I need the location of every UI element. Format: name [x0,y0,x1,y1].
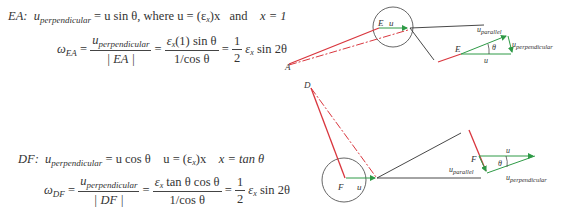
inset-e-theta-arc [488,44,489,54]
inset-f-u-perpendicular [487,156,535,173]
line-ae [289,28,379,64]
leader-e-lower [410,28,434,60]
label-a: A [284,62,291,72]
inset-e-red-segment [438,54,461,62]
inset-e-label-u-perpendicular: uperpendicular [512,40,553,50]
inset-e-u-parallel [461,36,506,54]
inset-f-label-u-parallel: uparallel [449,165,474,175]
inset-e-label-u: u [484,56,488,65]
label-u-e: u [389,18,394,28]
inset-f-label-u-perpendicular: uperpendicular [506,173,547,183]
inset-f-theta-arc [506,156,507,167]
label-e: E [377,18,384,28]
line-df-deformed [311,88,376,177]
inset-f-theta: θ [498,159,502,168]
inset-label-e: E [454,44,461,54]
leader-e-upper [410,25,484,28]
label-d: D [303,80,311,90]
label-f: F [337,182,344,192]
circle-f [322,158,366,202]
inset-f-label-u: u [506,146,510,155]
label-u-f: u [357,182,362,192]
inset-f-u-parallel [479,156,486,171]
line-ae-deformed [289,30,408,65]
inset-e-label-u-parallel: uparallel [477,25,502,35]
inset-label-f: F [470,154,477,164]
inset-e-theta: θ [492,43,496,52]
deformation-diagram: A E u E θ u uparallel uperpendicular D F… [0,0,567,217]
